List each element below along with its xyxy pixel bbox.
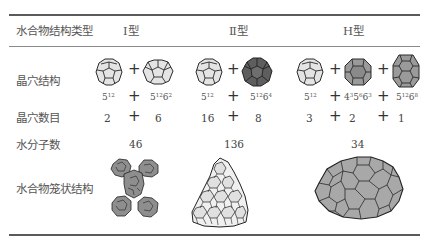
row-label-water-molecules: 水分子数 <box>16 140 60 152</box>
cage-cluster-type-h-icon <box>313 153 405 221</box>
table-bottom-rule <box>9 234 420 236</box>
plus-sign: + <box>377 109 390 124</box>
count-type-h-512: 3 <box>306 113 313 124</box>
count-type-i-512: 2 <box>104 113 111 124</box>
count-type-h-51268: 1 <box>398 113 405 124</box>
formula-512: 512 <box>304 93 317 102</box>
row-label-cavity-structure: 晶穴结构 <box>16 76 60 88</box>
water-count-type-i: 46 <box>129 139 142 150</box>
formula-512: 512 <box>102 93 115 102</box>
plus-sign: + <box>377 89 390 104</box>
plus-sign: + <box>227 89 240 104</box>
table-top-rule <box>9 14 420 16</box>
row-label-cavity-count: 晶穴数目 <box>16 113 60 125</box>
count-type-ii-51264: 8 <box>255 113 262 124</box>
formula-51268: 51268 <box>396 93 418 102</box>
cage-cluster-type-i-icon <box>110 158 160 220</box>
formula-51264: 51264 <box>250 93 272 102</box>
cavity-512-icon <box>295 57 325 87</box>
cavity-51262-icon <box>142 59 174 85</box>
cage-cluster-type-ii-icon <box>190 156 250 228</box>
count-type-i-51262: 6 <box>155 113 162 124</box>
plus-sign: + <box>329 62 342 77</box>
formula-51262: 51262 <box>150 93 172 102</box>
water-count-type-ii: 136 <box>224 139 244 150</box>
header-type-ii: Ⅱ型 <box>229 26 248 38</box>
plus-sign: + <box>227 62 240 77</box>
table-header-rule <box>9 46 420 47</box>
cavity-51264-icon <box>241 57 273 87</box>
cavity-435663-icon <box>343 57 373 87</box>
header-row-label: 水合物结构类型 <box>16 26 93 38</box>
plus-sign: + <box>128 89 141 104</box>
cavity-512-icon <box>194 57 224 87</box>
header-type-i: Ⅰ型 <box>123 26 139 38</box>
plus-sign: + <box>329 89 342 104</box>
plus-sign: + <box>128 62 141 77</box>
plus-sign: + <box>377 62 390 77</box>
cavity-512-icon <box>94 57 124 87</box>
water-count-type-h: 34 <box>351 139 364 150</box>
plus-sign: + <box>329 109 342 124</box>
plus-sign: + <box>227 109 240 124</box>
count-type-h-435663: 2 <box>349 113 356 124</box>
formula-512: 512 <box>201 93 214 102</box>
formula-435663: 435663 <box>344 93 372 102</box>
plus-sign: + <box>128 109 141 124</box>
count-type-ii-512: 16 <box>201 113 214 124</box>
row-label-cage-structure: 水合物笼状结构 <box>16 184 93 196</box>
cavity-51268-icon <box>391 53 421 89</box>
header-type-h: H型 <box>343 26 364 38</box>
